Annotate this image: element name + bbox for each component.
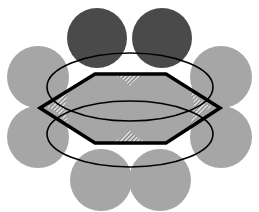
dark-circle-top-right-dark <box>132 8 192 68</box>
diagram-canvas <box>0 0 259 212</box>
light-circle-bottom-right <box>129 149 191 211</box>
circle-packing-hexagon-diagram <box>0 0 259 212</box>
dark-circle-top-left-dark <box>67 8 127 68</box>
light-circle-bottom-left <box>70 149 132 211</box>
dark-circles-group <box>67 8 192 68</box>
